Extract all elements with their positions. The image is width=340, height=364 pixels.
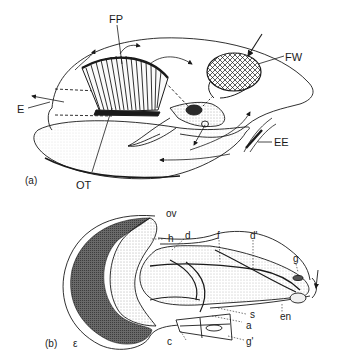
figure: FP FW E EE OT (a) ov h d f d' g s en a c… [0,0,340,364]
label-g-prime: g' [246,336,253,347]
label-a: a [246,320,252,331]
label-e: E [17,104,24,115]
label-f: f [217,230,220,241]
label-s: s [250,309,255,320]
label-d: d [185,230,191,241]
label-ee: EE [274,137,289,148]
label-epsilon: ε [73,338,77,349]
label-en: en [280,311,291,322]
label-c: c [167,336,172,347]
label-g: g [293,253,299,264]
filter-web [207,34,262,98]
panel-a-tag: (a) [25,175,37,186]
label-ov: ov [166,208,177,219]
panel-b-tag: (b) [45,338,57,349]
gill-fan [82,56,168,116]
egg-element [244,118,276,152]
label-ot: OT [76,180,91,191]
label-h: h [168,233,174,244]
label-d-prime: d' [250,230,257,241]
label-fp: FP [109,14,123,25]
label-fw: FW [285,52,302,63]
